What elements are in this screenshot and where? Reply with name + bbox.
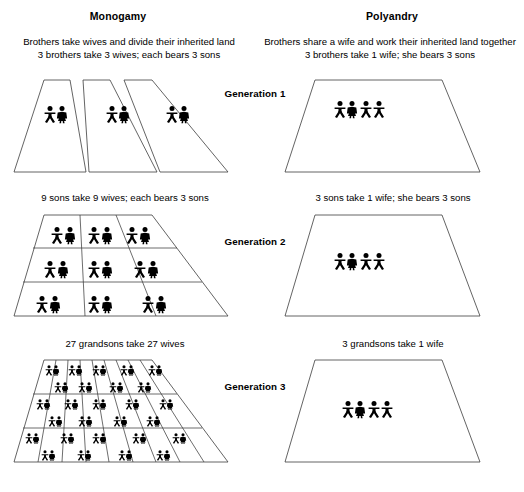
gen1-monogamy-plot-1 (14, 80, 86, 172)
gen1-polyandry-plot-1 (285, 80, 480, 172)
gen3-polyandry-plot-group (285, 360, 480, 462)
gen2-polyandry-plot-group (285, 215, 480, 316)
gen3-monogamy-field (14, 360, 228, 462)
gen3-polyandry-plot-1 (285, 360, 480, 462)
land-plots-svg (0, 0, 524, 492)
diagram-canvas: Monogamy Polyandry Brothers take wives a… (0, 0, 524, 492)
gen3-monogamy-plot-group (14, 360, 228, 462)
gen2-monogamy-plot-group (14, 215, 228, 316)
gen2-polyandry-plot-1 (285, 215, 480, 316)
gen1-monogamy-plot-group (14, 80, 228, 172)
gen1-polyandry-plot-group (285, 80, 480, 172)
gen2-monogamy-field (14, 215, 228, 316)
